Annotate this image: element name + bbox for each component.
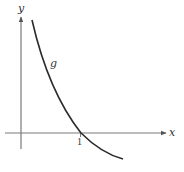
curve-label-g: g — [50, 58, 57, 69]
x-axis-label: x — [169, 127, 175, 138]
function-graph — [0, 0, 184, 172]
x-tick-label-1: 1 — [77, 137, 82, 147]
y-axis-label: y — [18, 3, 24, 14]
